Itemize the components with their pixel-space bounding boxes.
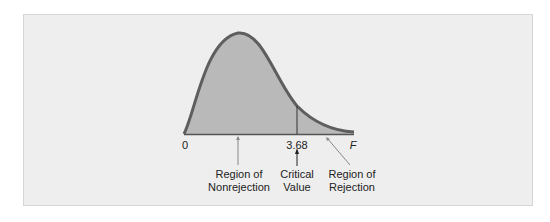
tick-zero: 0 (179, 139, 191, 152)
rejection-label-2: Rejection (322, 181, 382, 194)
critical-label-2: Value (277, 181, 317, 194)
tick-critical: 3.68 (282, 139, 312, 152)
nonrejection-label-2: Nonrejection (204, 181, 274, 194)
critical-label-1: Critical (277, 168, 317, 181)
rejection-label-1: Region of (322, 168, 382, 181)
f-distribution-chart (0, 0, 550, 222)
nonrejection-label-1: Region of (204, 168, 274, 181)
axis-label-f: F (346, 139, 360, 152)
distribution-area (184, 33, 354, 134)
